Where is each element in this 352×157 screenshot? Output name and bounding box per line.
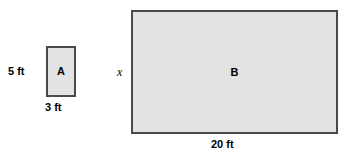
rectangle-b-height-label: x	[117, 66, 122, 78]
rectangle-a-height-label: 5 ft	[8, 66, 25, 77]
rectangle-a-letter: A	[57, 66, 65, 77]
rectangle-b-width-label: 20 ft	[211, 139, 234, 150]
rectangle-a-width-label: 3 ft	[45, 102, 62, 113]
similar-rectangles-figure: A 5 ft 3 ft B x 20 ft	[0, 0, 352, 157]
rectangle-b-letter: B	[231, 67, 239, 78]
rectangle-b-shape: B	[131, 10, 338, 134]
rectangle-a-shape: A	[46, 46, 76, 97]
